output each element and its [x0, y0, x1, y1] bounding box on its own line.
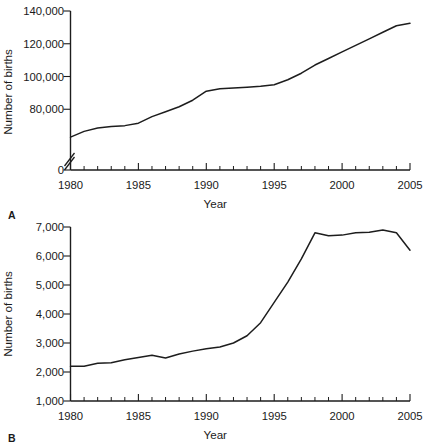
x-axis-tick-label: 1990	[194, 410, 219, 422]
y-axis-tick-label: 2,000	[36, 366, 64, 378]
x-axis-tick-label: 2005	[397, 179, 422, 191]
chart-panel-b: 7,0006,0005,0004,0003,0002,0001,00019801…	[0, 210, 426, 448]
x-axis-tick-label: 1980	[58, 410, 83, 422]
y-axis-tick-label: 100,000	[23, 71, 64, 83]
x-axis-title: Year	[204, 428, 228, 441]
x-axis-tick-label: 2005	[397, 410, 422, 422]
y-axis-tick-label: 3,000	[36, 337, 64, 349]
birth-statistics-figure: 140,000120,000100,00080,0000198019851990…	[0, 0, 426, 448]
x-axis-tick-label: 1980	[58, 179, 83, 191]
x-axis-tick-label: 2000	[330, 410, 355, 422]
y-axis-tick-label: 140,000	[23, 5, 64, 17]
x-axis-tick-label: 1985	[126, 179, 151, 191]
y-axis-tick-label: 80,000	[29, 103, 64, 115]
y-axis-tick-label: 7,000	[36, 221, 64, 233]
y-axis-tick-label: 5,000	[36, 279, 64, 291]
panel-letter-b: B	[8, 432, 16, 444]
y-axis-tick-label: 4,000	[36, 308, 64, 320]
x-axis-tick-label: 1995	[262, 179, 287, 191]
chart-a-svg: 140,000120,000100,00080,0000198019851990…	[0, 0, 426, 224]
y-axis-tick-label: 6,000	[36, 250, 64, 262]
chart-b-svg: 7,0006,0005,0004,0003,0002,0001,00019801…	[0, 210, 426, 448]
x-axis-tick-label: 2000	[330, 179, 355, 191]
x-axis-tick-label: 1995	[262, 410, 287, 422]
y-axis-tick-label: 0	[58, 164, 64, 176]
x-axis-tick-label: 1990	[194, 179, 219, 191]
x-axis-title: Year	[204, 197, 228, 210]
x-axis-tick-label: 1985	[126, 410, 151, 422]
data-series-line	[71, 23, 411, 137]
y-axis-tick-label: 120,000	[23, 38, 64, 50]
data-series-line	[71, 230, 411, 366]
y-axis-title: Number of births	[1, 271, 14, 357]
y-axis-title: Number of births	[1, 49, 14, 135]
chart-panel-a: 140,000120,000100,00080,0000198019851990…	[0, 0, 426, 224]
y-axis-tick-label: 1,000	[36, 395, 64, 407]
